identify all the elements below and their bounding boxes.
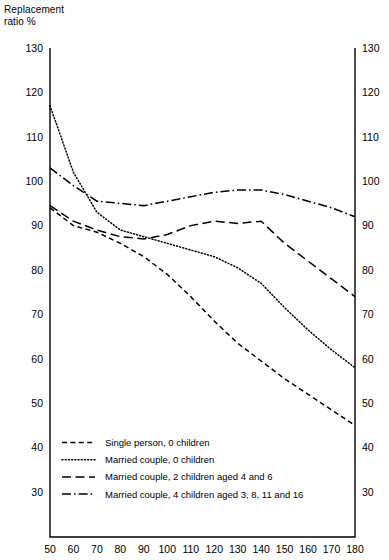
series-line-2 (50, 206, 355, 297)
y-tick-label-left-60: 60 (31, 353, 43, 365)
legend-label-3: Married couple, 4 children aged 3, 8, 11… (105, 489, 303, 500)
y-tick-label-right-90: 90 (362, 219, 374, 231)
y-tick-label-right-60: 60 (362, 353, 374, 365)
x-tick-label-80: 80 (115, 543, 127, 555)
chart-svg: 3030404050506060707080809090100100110110… (0, 0, 389, 560)
x-tick-label-130: 130 (229, 543, 247, 555)
series-line-0 (50, 208, 355, 426)
x-tick-label-50: 50 (44, 543, 56, 555)
x-tick-label-140: 140 (252, 543, 270, 555)
y-tick-label-left-110: 110 (26, 131, 43, 143)
y-tick-label-right-40: 40 (362, 441, 374, 453)
x-tick-label-180: 180 (346, 543, 364, 555)
x-tick-label-160: 160 (299, 543, 317, 555)
x-tick-label-150: 150 (276, 543, 294, 555)
x-tick-label-120: 120 (205, 543, 223, 555)
x-tick-label-100: 100 (159, 543, 177, 555)
series-line-1 (50, 106, 355, 368)
replacement-ratio-chart: Replacement ratio % 30304040505060607070… (0, 0, 389, 560)
legend-label-1: Married couple, 0 children (105, 454, 214, 465)
y-tick-label-left-120: 120 (25, 86, 43, 98)
legend: Single person, 0 childrenMarried couple,… (62, 437, 303, 500)
x-tick-label-170: 170 (323, 543, 341, 555)
y-tick-label-right-50: 50 (362, 397, 374, 409)
y-tick-label-left-90: 90 (31, 219, 43, 231)
y-tick-label-left-30: 30 (31, 486, 43, 498)
y-tick-label-left-50: 50 (31, 397, 43, 409)
y-tick-label-left-70: 70 (31, 308, 43, 320)
y-tick-label-right-100: 100 (362, 175, 380, 187)
y-tick-label-right-130: 130 (362, 42, 380, 54)
x-tick-label-90: 90 (138, 543, 150, 555)
data-series (50, 106, 355, 426)
y-tick-label-left-40: 40 (31, 441, 43, 453)
y-tick-label-right-70: 70 (362, 308, 374, 320)
y-tick-label-right-80: 80 (362, 264, 374, 276)
legend-label-0: Single person, 0 children (105, 437, 210, 448)
x-tick-label-70: 70 (91, 543, 103, 555)
y-tick-label-right-120: 120 (362, 86, 380, 98)
y-tick-label-left-100: 100 (25, 175, 43, 187)
y-tick-label-right-110: 110 (362, 131, 379, 143)
legend-label-2: Married couple, 2 children aged 4 and 6 (105, 471, 272, 482)
series-line-3 (50, 168, 355, 217)
x-tick-label-110: 110 (182, 543, 199, 555)
y-tick-label-left-130: 130 (25, 42, 43, 54)
y-tick-label-left-80: 80 (31, 264, 43, 276)
x-tick-label-60: 60 (68, 543, 80, 555)
y-tick-label-right-30: 30 (362, 486, 374, 498)
